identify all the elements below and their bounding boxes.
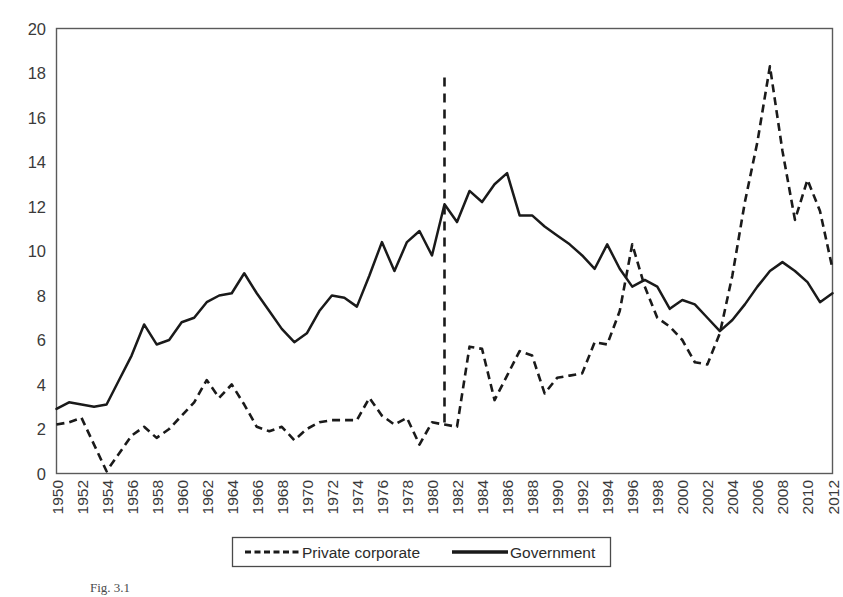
x-tick-label: 1950 [49, 480, 66, 515]
x-tick-label: 2006 [749, 480, 766, 514]
x-tick-label: 1972 [324, 480, 341, 514]
x-tick-label: 1970 [299, 480, 316, 515]
figure-root: 02468101214161820 1950195219541956195819… [0, 0, 843, 597]
x-tick-label: 2004 [724, 480, 741, 515]
y-tick-label: 10 [28, 242, 46, 260]
x-tick-label: 1998 [649, 480, 666, 514]
x-tick-label: 1976 [374, 480, 391, 514]
x-tick-label: 1994 [599, 480, 616, 515]
y-tick-label: 0 [37, 465, 46, 483]
x-tick-label: 1974 [349, 480, 366, 515]
x-tick-label: 1988 [524, 480, 541, 514]
x-tick-label: 1954 [99, 480, 116, 515]
y-axis-tick-labels: 02468101214161820 [28, 20, 46, 483]
legend-label-private-corporate: Private corporate [302, 544, 420, 561]
y-tick-label: 12 [28, 198, 46, 216]
y-tick-label: 6 [37, 331, 46, 349]
figure-caption: Fig. 3.1 [90, 580, 130, 595]
x-tick-label: 1986 [499, 480, 516, 514]
x-tick-label: 2000 [674, 480, 691, 515]
x-tick-label: 1966 [249, 480, 266, 514]
x-tick-label: 2012 [825, 480, 842, 514]
x-tick-label: 2002 [699, 480, 716, 514]
y-tick-label: 14 [28, 153, 46, 171]
x-tick-label: 1980 [424, 480, 441, 515]
x-tick-label: 1990 [549, 480, 566, 515]
x-tick-label: 1978 [399, 480, 416, 514]
chart-legend: Private corporate Government [233, 538, 611, 567]
y-tick-label: 18 [28, 64, 46, 82]
x-tick-label: 1964 [224, 480, 241, 515]
x-tick-label: 1962 [199, 480, 216, 514]
y-tick-label: 16 [28, 109, 46, 127]
x-tick-label: 1958 [149, 480, 166, 514]
x-tick-label: 1960 [174, 480, 191, 515]
x-tick-label: 1956 [124, 480, 141, 514]
x-tick-label: 2010 [799, 480, 816, 515]
x-tick-label: 1968 [274, 480, 291, 514]
x-tick-label: 1996 [624, 480, 641, 514]
x-tick-label: 1982 [449, 480, 466, 514]
x-tick-label: 1992 [574, 480, 591, 514]
x-tick-label: 2008 [774, 480, 791, 514]
legend-label-government: Government [510, 544, 596, 561]
y-tick-label: 8 [37, 287, 46, 305]
x-axis-tick-labels: 1950195219541956195819601962196419661968… [49, 480, 842, 515]
y-tick-label: 20 [28, 20, 46, 38]
y-tick-label: 2 [37, 420, 46, 438]
y-tick-label: 4 [37, 376, 46, 394]
x-tick-label: 1952 [74, 480, 91, 514]
line-chart: 02468101214161820 1950195219541956195819… [0, 0, 843, 597]
x-tick-label: 1984 [474, 480, 491, 515]
